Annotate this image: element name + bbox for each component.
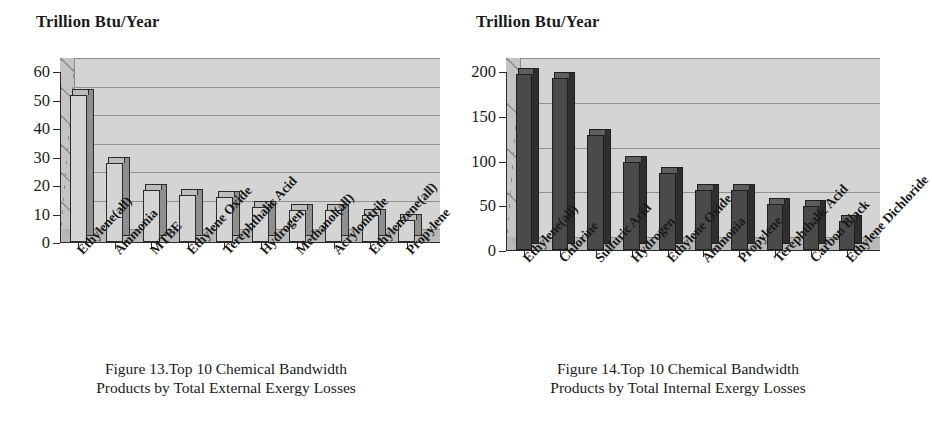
bar-top-face (554, 72, 571, 78)
y-axis-tick (53, 72, 60, 73)
y-axis-tick (53, 158, 60, 159)
y-axis-line (506, 72, 507, 251)
bar-top-face (733, 184, 750, 190)
gridline (75, 87, 440, 88)
bar-top-face (589, 129, 606, 135)
figure-14: Trillion Btu/Year 050100150200 Ethylene(… (452, 0, 904, 428)
caption-line-2: Products by Total External Exergy Losses (0, 378, 452, 397)
caption-line-1: Figure 13.Top 10 Chemical Bandwidth (0, 359, 452, 378)
gridline (75, 58, 440, 59)
y-axis-line (60, 72, 61, 243)
bar-front-face (516, 74, 533, 250)
y-axis-tick (499, 206, 506, 207)
bar (70, 95, 87, 242)
y-axis-tick-label: 0 (448, 241, 496, 261)
gridline (75, 115, 440, 116)
y-axis-tick-label: 30 (2, 147, 50, 167)
bar-top-face (518, 68, 535, 74)
bar-front-face (70, 95, 87, 242)
caption-line-2: Products by Total Internal Exergy Losses (452, 378, 904, 397)
y-axis-tick (53, 215, 60, 216)
y-axis-tick (499, 162, 506, 163)
figure-14-caption: Figure 14.Top 10 Chemical Bandwidth Prod… (452, 359, 904, 397)
y-axis-tick-label: 0 (2, 233, 50, 253)
y-axis-tick (53, 243, 60, 244)
y-axis-unit-title: Trillion Btu/Year (36, 12, 160, 32)
y-axis-tick (53, 186, 60, 187)
y-axis-tick-label: 50 (448, 196, 496, 216)
y-axis-tick-label: 50 (2, 90, 50, 110)
bar-side-face (87, 89, 94, 236)
bar-top-face (145, 184, 162, 190)
gridline-connector (60, 58, 75, 72)
y-axis-tick-label: 200 (448, 62, 496, 82)
y-axis-tick-label: 60 (2, 62, 50, 82)
bar-side-face (676, 167, 683, 244)
y-axis-tick (499, 251, 506, 252)
bar-top-face (661, 167, 678, 173)
bar-top-face (697, 184, 714, 190)
gridline (521, 58, 880, 59)
caption-line-1: Figure 14.Top 10 Chemical Bandwidth (452, 359, 904, 378)
bar-side-face (604, 129, 611, 244)
y-axis-tick-label: 10 (2, 204, 50, 224)
figure-13-caption: Figure 13.Top 10 Chemical Bandwidth Prod… (0, 359, 452, 397)
y-axis-tick-label: 150 (448, 106, 496, 126)
y-axis-tick (53, 129, 60, 130)
gridline (75, 144, 440, 145)
bar-top-face (181, 189, 198, 195)
bar-top-face (769, 198, 786, 204)
y-axis-tick (499, 117, 506, 118)
bar-top-face (72, 89, 89, 95)
bar-top-face (625, 156, 642, 162)
bar (516, 74, 533, 250)
y-axis-tick-label: 100 (448, 151, 496, 171)
bar-top-face (108, 157, 125, 163)
figure-13: Trillion Btu/Year 0102030405060 Ethylene… (0, 0, 452, 428)
y-axis-unit-title: Trillion Btu/Year (476, 12, 600, 32)
bar-side-face (532, 68, 539, 244)
y-axis-tick-label: 20 (2, 176, 50, 196)
y-axis-tick-label: 40 (2, 119, 50, 139)
y-axis-tick (499, 72, 506, 73)
y-axis-tick (53, 101, 60, 102)
